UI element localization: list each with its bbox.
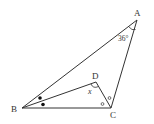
angle-label-x: x <box>87 87 92 96</box>
segment-bd <box>22 82 96 108</box>
segment-dc <box>96 82 111 108</box>
vertex-label-a: A <box>134 8 141 18</box>
angle-mark-circle-1 <box>108 97 111 100</box>
angle-mark-dot-1 <box>38 96 42 100</box>
vertex-label-c: C <box>110 110 116 120</box>
angle-mark-dot-2 <box>41 103 45 107</box>
triangle-diagram: A B C D 36° x <box>0 0 154 124</box>
vertex-label-b: B <box>11 104 17 114</box>
angle-mark-circle-2 <box>101 103 104 106</box>
vertex-label-d: D <box>92 71 99 81</box>
angle-label-a: 36° <box>118 34 129 43</box>
